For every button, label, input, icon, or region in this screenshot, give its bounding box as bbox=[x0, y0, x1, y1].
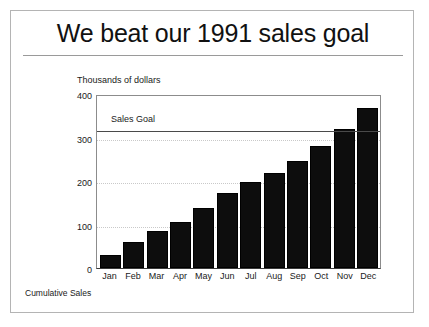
x-label-mar: Mar bbox=[146, 271, 167, 281]
bar-may bbox=[193, 208, 214, 268]
bar-column-nov bbox=[334, 96, 355, 268]
sales-goal-line bbox=[97, 131, 380, 132]
slide-frame: We beat our 1991 sales goal Thousands of… bbox=[10, 10, 414, 313]
bar-jul bbox=[240, 182, 261, 268]
x-label-jun: Jun bbox=[217, 271, 238, 281]
x-label-may: May bbox=[193, 271, 214, 281]
bar-apr bbox=[170, 222, 191, 268]
bar-dec bbox=[357, 108, 378, 268]
x-label-jul: Jul bbox=[240, 271, 261, 281]
plot-area: 400 300 200 100 0 Sales Goal bbox=[96, 95, 381, 269]
bar-nov bbox=[334, 129, 355, 268]
x-label-feb: Feb bbox=[123, 271, 144, 281]
title-divider bbox=[23, 55, 403, 56]
bar-oct bbox=[310, 146, 331, 268]
x-label-oct: Oct bbox=[311, 271, 332, 281]
bar-column-aug bbox=[264, 96, 285, 268]
x-label-nov: Nov bbox=[334, 271, 355, 281]
bar-jun bbox=[217, 193, 238, 268]
y-tick-400: 400 bbox=[77, 91, 97, 101]
x-label-sep: Sep bbox=[287, 271, 308, 281]
x-label-aug: Aug bbox=[264, 271, 285, 281]
bar-column-may bbox=[193, 96, 214, 268]
bar-mar bbox=[147, 231, 168, 268]
bar-column-jul bbox=[240, 96, 261, 268]
bar-column-jun bbox=[217, 96, 238, 268]
page-title: We beat our 1991 sales goal bbox=[11, 19, 415, 48]
x-label-apr: Apr bbox=[170, 271, 191, 281]
bar-column-sep bbox=[287, 96, 308, 268]
x-axis-labels: Jan Feb Mar Apr May Jun Jul Aug Sep Oct … bbox=[96, 271, 381, 281]
bar-column-oct bbox=[310, 96, 331, 268]
bar-feb bbox=[123, 242, 144, 268]
bar-column-dec bbox=[357, 96, 378, 268]
bar-sep bbox=[287, 161, 308, 268]
y-axis-unit-label: Thousands of dollars bbox=[77, 75, 161, 85]
sales-goal-label: Sales Goal bbox=[111, 114, 155, 124]
bar-column-apr bbox=[170, 96, 191, 268]
bar-aug bbox=[264, 173, 285, 268]
y-tick-300: 300 bbox=[77, 135, 97, 145]
bar-chart: 400 300 200 100 0 Sales Goal bbox=[51, 95, 411, 270]
slide-footer: Cumulative Sales bbox=[25, 288, 91, 298]
bar-jan bbox=[100, 255, 121, 268]
x-label-dec: Dec bbox=[358, 271, 379, 281]
y-tick-200: 200 bbox=[77, 178, 97, 188]
y-tick-100: 100 bbox=[77, 222, 97, 232]
x-label-jan: Jan bbox=[99, 271, 120, 281]
